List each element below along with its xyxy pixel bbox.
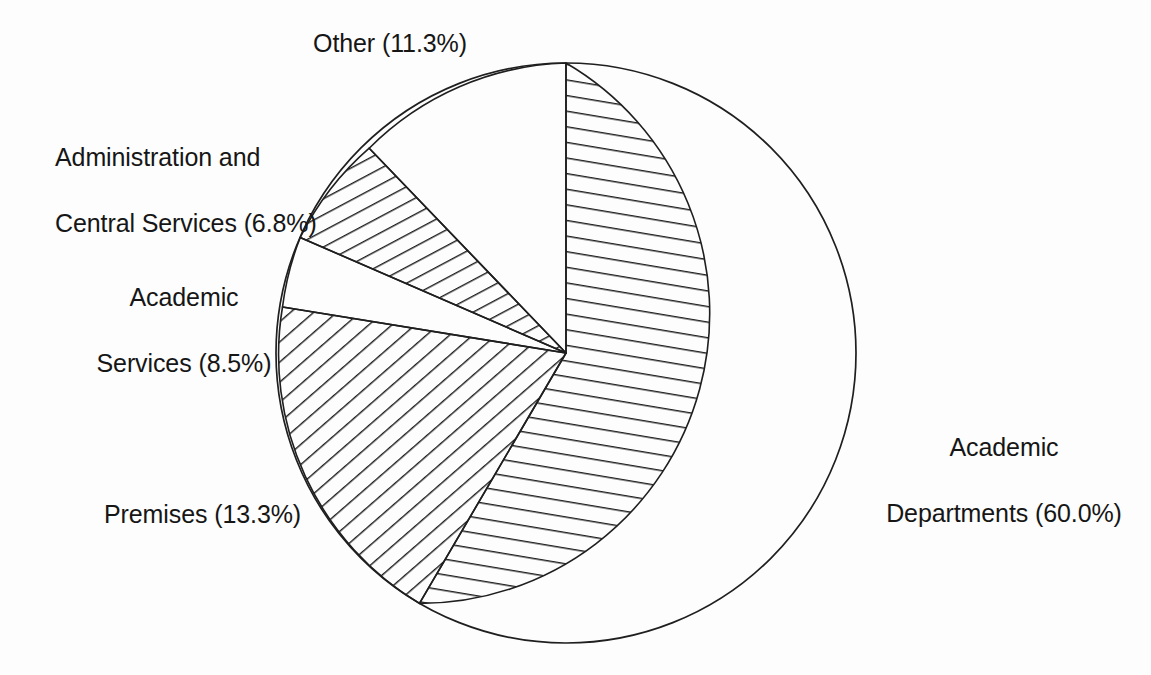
pie-label-premises: Premises (13.3%) <box>104 498 334 531</box>
pie-label-administration-line1: Administration and <box>55 141 355 174</box>
pie-label-administration-line2: Central Services (6.8%) <box>55 207 355 240</box>
pie-chart-figure: Other (11.3%) Administration and Central… <box>0 0 1151 675</box>
pie-label-academic-services-line2: Services (8.5%) <box>84 347 284 380</box>
pie-label-academic-services: Academic Services (8.5%) <box>84 248 284 413</box>
pie-label-academic-departments: Academic Departments (60.0%) <box>868 398 1140 563</box>
pie-label-academic-services-line1: Academic <box>84 281 284 314</box>
pie-label-academic-departments-line2: Departments (60.0%) <box>868 497 1140 530</box>
pie-label-other: Other (11.3%) <box>300 27 480 60</box>
pie-label-academic-departments-line1: Academic <box>868 431 1140 464</box>
